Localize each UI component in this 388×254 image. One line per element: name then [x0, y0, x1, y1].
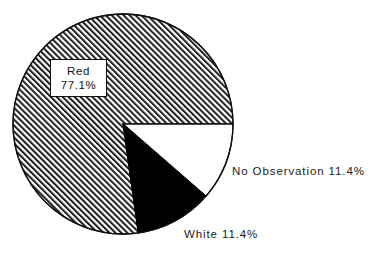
pie-label-white: White 11.4% [184, 228, 258, 241]
pie-chart-canvas [0, 0, 388, 254]
pie-label-red-value: 77.1% [61, 78, 97, 92]
pie-label-red-box: Red 77.1% [50, 59, 107, 97]
pie-label-red-name: Red [67, 64, 90, 78]
pie-chart-figure: Red 77.1% No Observation 11.4% White 11.… [0, 0, 388, 254]
pie-label-no-observation: No Observation 11.4% [232, 165, 365, 178]
